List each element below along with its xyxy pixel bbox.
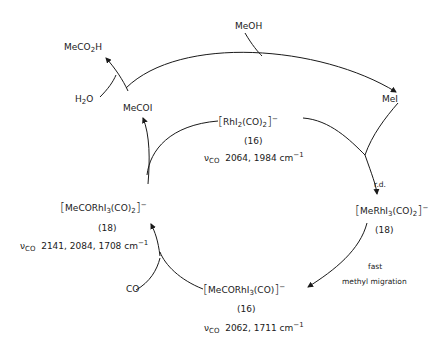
- methyl-migration-label: methyl migration: [342, 277, 407, 287]
- h2o-label: H2O: [75, 94, 93, 107]
- arc-mecoi-to-mei: [126, 52, 396, 92]
- arc-top-to-left: [147, 121, 218, 175]
- arc-left-to-mecoi: [143, 118, 149, 184]
- fast-label: fast: [368, 262, 382, 272]
- electron-count-top: (16): [244, 136, 262, 146]
- meoh-label: MeOH: [235, 21, 262, 31]
- complex-mecorhi3co2: [MeCORhI3(CO)2]−: [60, 200, 147, 216]
- electron-count-right: (18): [375, 225, 393, 235]
- mei-feed-line: [365, 103, 398, 155]
- electron-count-bottom: (16): [237, 304, 255, 314]
- catalytic-cycle-diagram: MeOH MeI MeCO2H H2O MeCOI [RhI2(CO)2]− (…: [0, 0, 447, 347]
- electron-count-left: (18): [98, 223, 116, 233]
- co-label: CO: [126, 284, 139, 294]
- mei-label: MeI: [382, 94, 398, 104]
- rate-determining-label: r.d.: [374, 180, 386, 190]
- mecoi-label: MeCOI: [123, 103, 152, 113]
- meco2h-label: MeCO2H: [64, 42, 102, 55]
- ir-bottom: νCO 2062, 1711 cm−1: [204, 320, 304, 336]
- h2o-feed-line: [100, 75, 116, 97]
- ir-top: νCO 2064, 1984 cm−1: [204, 150, 304, 166]
- complex-mecorhi3co: [MeCORhI3(CO)]−: [203, 282, 285, 298]
- co-feed-line: [136, 258, 160, 290]
- complex-merhi3co2: [MeRhI3(CO)2]−: [355, 203, 428, 219]
- arc-top-to-right: [303, 118, 365, 155]
- arc-bottom-to-left: [160, 252, 203, 289]
- complex-rhi2co2: [RhI2(CO)2]−: [218, 114, 278, 130]
- arrow-to-left-complex: [151, 224, 160, 256]
- ir-left: νCO 2141, 2084, 1708 cm−1: [20, 238, 148, 254]
